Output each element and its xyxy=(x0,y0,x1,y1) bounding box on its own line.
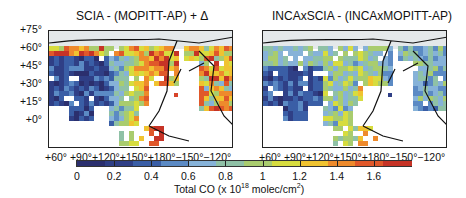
panel-left-title: SCIA - (MOPITT-AP) + Δ xyxy=(76,9,208,23)
colorbar-tick-label: 1 xyxy=(260,170,266,182)
colorbar-tick-label: 0 xyxy=(74,170,80,182)
y-tick: +60° xyxy=(6,41,42,53)
y-tick: +30° xyxy=(6,77,42,89)
y-tick: +75° xyxy=(6,23,42,35)
colorbar-tick-label: 0.2 xyxy=(107,170,122,182)
panel-right-title: INCAxSCIA - (INCAxMOPITT-AP) xyxy=(272,9,452,23)
map-inca xyxy=(262,30,447,148)
colorbar-tick-label: 1.6 xyxy=(367,170,382,182)
colorbar-label: Total CO (x 1018 molec/cm2) xyxy=(174,182,304,195)
colorbar-tick-label: 1.2 xyxy=(292,170,307,182)
y-tick: +15° xyxy=(6,95,42,107)
colorbar-tick-label: 0.8 xyxy=(218,170,233,182)
colorbar-tick-label: 0.6 xyxy=(181,170,196,182)
map-scia xyxy=(48,30,233,148)
colorbar-tick-label: 0.4 xyxy=(144,170,159,182)
colorbar-tick-label: 1.4 xyxy=(329,170,344,182)
y-tick: +45° xyxy=(6,59,42,71)
colorbar xyxy=(76,160,412,167)
y-tick: +0° xyxy=(6,113,42,125)
